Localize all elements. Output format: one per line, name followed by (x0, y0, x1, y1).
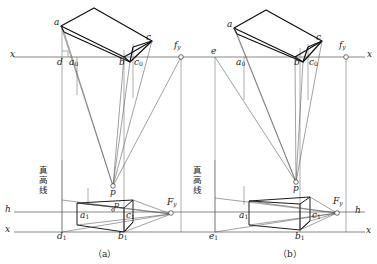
panel-a-ray-b (113, 57, 124, 186)
panel-b-label-e1: e1 (209, 232, 218, 241)
panel-a-label-d1: d1 (57, 232, 67, 241)
panel-a-label-d: d (57, 58, 63, 67)
panel-b-label-a: a (227, 20, 232, 29)
caption-b: （b） (278, 247, 302, 260)
panel-b-ray-a2 (237, 34, 296, 182)
panel-a-label-c0: c0 (134, 58, 143, 67)
panel-a-persp-edge-top (124, 200, 133, 208)
panel-b-Fy-node (335, 211, 340, 216)
panel-a-label-c: c (146, 33, 151, 42)
panel-a-true-height-line-label: 真高线 (38, 165, 49, 195)
panel-b-ray-e (215, 57, 296, 182)
panel-a-conv-d1 (62, 214, 171, 232)
panel-a-ray-a2 (64, 32, 113, 186)
panel-b-object-top-face (234, 10, 322, 57)
figure-canvas: .hv{stroke:#555;stroke-width:0.7;fill:no… (0, 0, 377, 264)
panel-b-label-a1: a1 (239, 211, 248, 220)
panel-a-label-p-hat: p (110, 188, 116, 197)
panel-a-label-fy: fy (174, 41, 181, 50)
panel-b-label-c0: c0 (309, 58, 318, 67)
panel-a-ray-b2 (113, 62, 130, 186)
panel-a-label-a: a (54, 18, 59, 27)
panel-b-label-c: c (316, 33, 321, 42)
panel-b-persp-edge-bot (300, 221, 310, 230)
panel-a-label-a1: a1 (80, 211, 89, 220)
panel-b-fy-node (344, 55, 349, 60)
panel-b-label-b1: b1 (295, 232, 305, 241)
panel-a-Fy-node (169, 211, 174, 216)
panel-b-true-height-line-label: 真高线 (192, 165, 203, 195)
panel-a-label-b1: b1 (118, 232, 128, 241)
axis-label-h-right: h (355, 206, 361, 215)
panel-a-label-Fy: Fy (167, 198, 177, 207)
panel-a-label-a0: a0 (69, 58, 78, 67)
panel-b-ray-b (295, 57, 296, 182)
axis-label-x-upper-right: x (367, 50, 372, 59)
panel-a-label-p: p (114, 201, 119, 209)
panel-b-label-e: e (211, 47, 216, 56)
panel-b-conv-a-top (249, 201, 337, 213)
axis-label-h-left: h (5, 205, 11, 214)
panel-a-group (14, 8, 190, 232)
panel-a-fy-node (179, 55, 184, 60)
panel-b-label-c1: c1 (312, 211, 321, 220)
axis-label-x-upper-left: x (10, 50, 15, 59)
panel-b-label-b: b (294, 58, 300, 67)
panel-a-ray-fy (113, 57, 181, 186)
axis-label-x-lower-left: x (5, 225, 10, 234)
panel-b-label-fy: fy (339, 41, 346, 50)
axis-label-x-lower-right: x (366, 226, 371, 235)
panel-a-label-c1: c1 (126, 211, 135, 220)
panel-b-label-Fy: Fy (333, 197, 343, 206)
panel-a-p-node (112, 209, 115, 212)
panel-b-label-a0: a0 (236, 58, 245, 67)
panel-b-persp-edge-top (300, 197, 310, 204)
caption-a: （a） (93, 247, 116, 260)
panel-a-object-top-face (61, 8, 152, 57)
panel-a-label-b: b (119, 58, 125, 67)
panel-b-label-p-hat: p (293, 184, 299, 193)
